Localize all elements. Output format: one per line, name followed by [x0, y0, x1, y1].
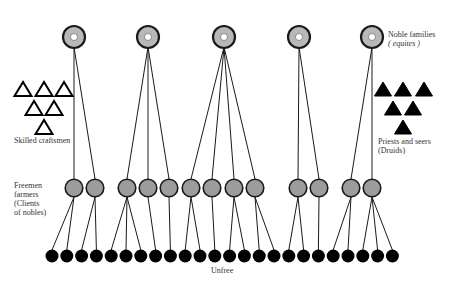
unfree-node	[342, 250, 355, 263]
craftsman-triangle-icon	[36, 120, 53, 134]
freeman-unfree-link	[212, 197, 215, 250]
freeman-unfree-link	[185, 197, 191, 250]
freeman-unfree-link	[255, 197, 274, 250]
nobles-label: Noble families ( equites )	[388, 30, 435, 48]
freeman-node	[342, 179, 360, 197]
unfree-node	[164, 250, 177, 263]
priest-triangle-icon	[405, 101, 422, 115]
craftsmen-label: Skilled craftsmen	[14, 136, 70, 145]
priest-triangle-icon	[375, 82, 392, 96]
noble-node-center	[221, 34, 228, 41]
unfree-node	[282, 250, 295, 263]
craftsman-triangle-icon	[46, 101, 63, 115]
priest-triangle-icon	[395, 82, 412, 96]
freeman-node	[118, 179, 136, 197]
freeman-node	[246, 179, 264, 197]
craftsman-triangle-icon	[36, 82, 53, 96]
priest-triangles	[375, 82, 433, 134]
noble-node-center	[296, 34, 303, 41]
unfree-node	[105, 250, 118, 263]
freeman-node	[182, 179, 200, 197]
unfree-node	[194, 250, 207, 263]
noble-freeman-link	[212, 47, 224, 179]
unfree-node	[90, 250, 103, 263]
unfree-node	[238, 250, 251, 263]
unfree-node	[134, 250, 147, 263]
noble-freeman-link	[298, 47, 299, 179]
noble-node-center	[71, 34, 78, 41]
freeman-node	[225, 179, 243, 197]
freeman-unfree-link	[148, 197, 156, 250]
noble-node-center	[369, 34, 376, 41]
noble-freeman-link	[351, 47, 372, 179]
noble-node-center	[145, 34, 152, 41]
craftsman-triangle-icon	[56, 82, 73, 96]
freeman-unfree-link	[363, 197, 372, 250]
unfree-node	[46, 250, 59, 263]
noble-to-freeman-links	[74, 47, 372, 179]
freeman-to-unfree-links	[52, 197, 392, 250]
priest-triangle-icon	[385, 101, 402, 115]
craftsman-triangle-icon	[15, 82, 32, 96]
noble-freeman-link	[148, 47, 169, 179]
freeman-unfree-link	[230, 197, 234, 250]
freeman-unfree-link	[234, 197, 244, 250]
freeman-node	[363, 179, 381, 197]
unfree-node	[356, 250, 369, 263]
unfree-node	[120, 250, 133, 263]
unfree-node	[75, 250, 88, 263]
unfree-node	[149, 250, 162, 263]
unfree-node	[297, 250, 310, 263]
freeman-unfree-link	[95, 197, 96, 250]
unfree-node	[386, 250, 399, 263]
freeman-unfree-link	[289, 197, 298, 250]
freeman-unfree-link	[169, 197, 170, 250]
freeman-node	[160, 179, 178, 197]
freeman-farmer-nodes	[65, 179, 381, 197]
priest-triangle-icon	[395, 120, 412, 134]
unfree-node	[208, 250, 221, 263]
noble-freeman-link	[299, 47, 319, 179]
freeman-unfree-link	[298, 197, 304, 250]
freeman-node	[203, 179, 221, 197]
craftsman-triangle-icon	[26, 101, 43, 115]
noble-freeman-link	[74, 47, 95, 179]
freeman-unfree-link	[111, 197, 127, 250]
unfree-node	[253, 250, 266, 263]
freeman-node	[65, 179, 83, 197]
freeman-node	[86, 179, 104, 197]
unfree-node	[268, 250, 281, 263]
unfree-node	[312, 250, 325, 263]
freeman-node	[289, 179, 307, 197]
unfree-nodes	[46, 250, 399, 263]
freeman-unfree-link	[318, 197, 319, 250]
noble-freeman-link	[191, 47, 224, 179]
unfree-node	[60, 250, 73, 263]
freeman-unfree-link	[127, 197, 141, 250]
freeman-unfree-link	[191, 197, 200, 250]
freeman-unfree-link	[126, 197, 127, 250]
noble-family-nodes	[63, 26, 383, 48]
freeman-node	[139, 179, 157, 197]
freemen-label: Freemen farmers (Clients of nobles)	[14, 181, 46, 217]
freeman-unfree-link	[255, 197, 259, 250]
skilled-craftsmen-triangles	[15, 82, 73, 134]
unfree-node	[179, 250, 192, 263]
freeman-unfree-link	[82, 197, 95, 250]
unfree-node	[327, 250, 340, 263]
priest-triangle-icon	[416, 82, 433, 96]
unfree-node	[223, 250, 236, 263]
unfree-node	[371, 250, 384, 263]
freeman-node	[310, 179, 328, 197]
unfree-label: Unfree	[211, 266, 233, 275]
priests-label: Priests and seers (Druids)	[378, 137, 431, 155]
noble-freeman-link	[127, 47, 148, 179]
